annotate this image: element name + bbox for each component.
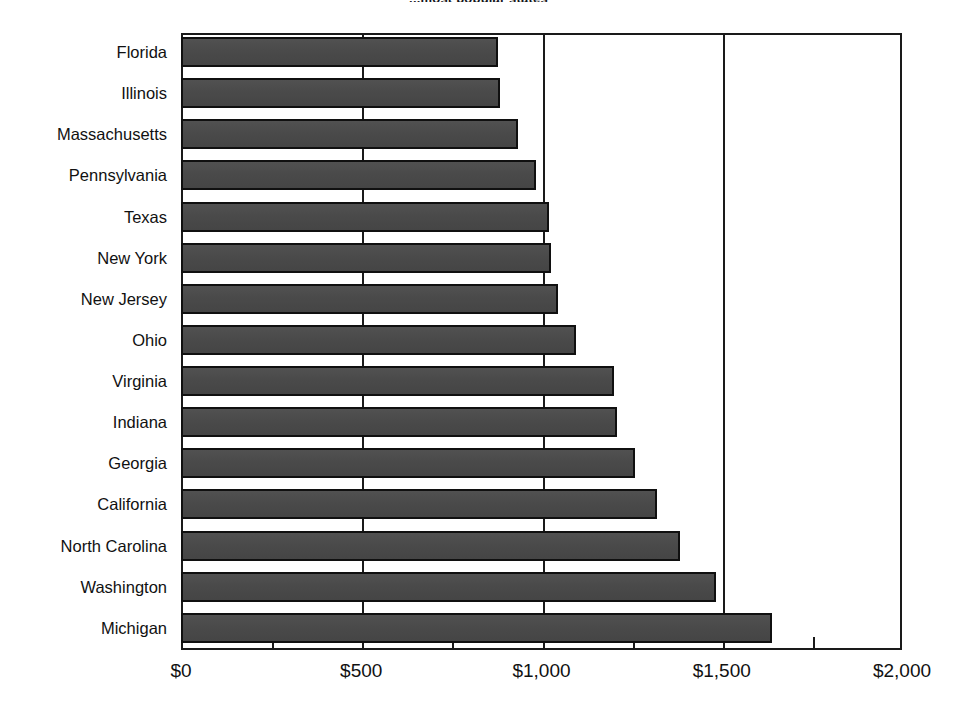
y-axis-label-ohio: Ohio (132, 321, 167, 360)
bar-florida[interactable] (181, 37, 498, 67)
bar-row[interactable] (181, 568, 902, 607)
x-axis-label-1500: $1,500 (693, 660, 751, 682)
bar-virginia[interactable] (181, 366, 614, 396)
bar-row[interactable] (181, 198, 902, 237)
chart-title: ...most popular states (0, 0, 957, 2)
y-axis-label-georgia: Georgia (108, 444, 167, 483)
bars-layer (181, 33, 902, 650)
x-axis-label-1000: $1,000 (512, 660, 570, 682)
bar-row[interactable] (181, 115, 902, 154)
bar-row[interactable] (181, 609, 902, 648)
bar-massachusetts[interactable] (181, 119, 518, 149)
y-axis-label-washington: Washington (80, 568, 167, 607)
y-axis-label-michigan: Michigan (101, 609, 167, 648)
x-axis-label-2000: $2,000 (873, 660, 931, 682)
bar-ohio[interactable] (181, 325, 576, 355)
y-axis-label-new-jersey: New Jersey (81, 280, 167, 319)
bar-row[interactable] (181, 485, 902, 524)
x-axis-label-0: $0 (170, 660, 191, 682)
y-axis-label-virginia: Virginia (112, 362, 167, 401)
bar-row[interactable] (181, 527, 902, 566)
bar-row[interactable] (181, 321, 902, 360)
y-axis-label-pennsylvania: Pennsylvania (69, 156, 167, 195)
bar-georgia[interactable] (181, 448, 635, 478)
y-axis-label-north-carolina: North Carolina (61, 527, 167, 566)
bar-washington[interactable] (181, 572, 716, 602)
bar-row[interactable] (181, 362, 902, 401)
y-axis-label-indiana: Indiana (113, 403, 167, 442)
bar-new-jersey[interactable] (181, 284, 558, 314)
bar-row[interactable] (181, 239, 902, 278)
bar-north-carolina[interactable] (181, 531, 680, 561)
bar-california[interactable] (181, 489, 657, 519)
y-axis-label-massachusetts: Massachusetts (57, 115, 167, 154)
bar-michigan[interactable] (181, 613, 772, 643)
bar-row[interactable] (181, 403, 902, 442)
y-axis-label-illinois: Illinois (121, 74, 167, 113)
y-axis-category-labels: FloridaIllinoisMassachusettsPennsylvania… (0, 33, 175, 650)
bar-pennsylvania[interactable] (181, 160, 536, 190)
bar-chart: ...most popular states FloridaIllinoisMa… (0, 0, 957, 710)
x-axis-label-500: $500 (340, 660, 382, 682)
bar-row[interactable] (181, 156, 902, 195)
bar-row[interactable] (181, 74, 902, 113)
bar-row[interactable] (181, 33, 902, 72)
y-axis-label-california: California (97, 485, 167, 524)
bar-indiana[interactable] (181, 407, 617, 437)
bar-row[interactable] (181, 280, 902, 319)
bar-illinois[interactable] (181, 78, 500, 108)
bar-row[interactable] (181, 444, 902, 483)
y-axis-label-texas: Texas (124, 198, 167, 237)
x-axis-tick-labels: $0$500$1,000$1,500$2,000 (0, 660, 957, 690)
bar-texas[interactable] (181, 202, 549, 232)
bar-new-york[interactable] (181, 243, 551, 273)
y-axis-label-new-york: New York (97, 239, 167, 278)
y-axis-label-florida: Florida (117, 33, 167, 72)
